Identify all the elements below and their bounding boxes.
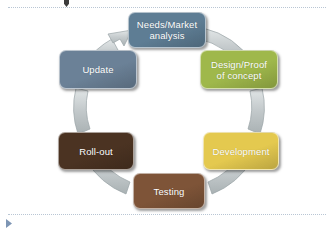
process-node-update[interactable]: Update [59, 50, 137, 89]
process-node-testing[interactable]: Testing [133, 173, 205, 209]
process-node-needs[interactable]: Needs/Market analysis [128, 12, 206, 48]
process-node-testing-label: Testing [138, 186, 200, 197]
play-triangle-icon[interactable] [6, 219, 12, 228]
drag-handle-icon[interactable] [64, 0, 69, 7]
process-node-design-line2: of concept [217, 70, 262, 81]
process-node-development-label: Development [208, 146, 274, 157]
process-node-development[interactable]: Development [203, 132, 279, 170]
process-node-design-line1: Design/Proof [211, 59, 267, 70]
process-node-design[interactable]: Design/Proof of concept [200, 50, 278, 89]
cyclical-process-diagram[interactable]: Needs/Market analysis Design/Proof of co… [0, 8, 334, 214]
process-node-needs-line2: analysis [149, 30, 184, 41]
arc-design-to-development [248, 88, 264, 134]
process-node-update-label: Update [64, 64, 132, 75]
arc-rollout-to-update [74, 88, 90, 134]
process-node-rollout[interactable]: Roll-out [58, 132, 134, 170]
process-node-rollout-label: Roll-out [63, 146, 129, 157]
placeholder-border-bottom [8, 214, 326, 215]
process-node-needs-line1: Needs/Market [137, 19, 197, 30]
slide-canvas: Needs/Market analysis Design/Proof of co… [0, 0, 334, 232]
